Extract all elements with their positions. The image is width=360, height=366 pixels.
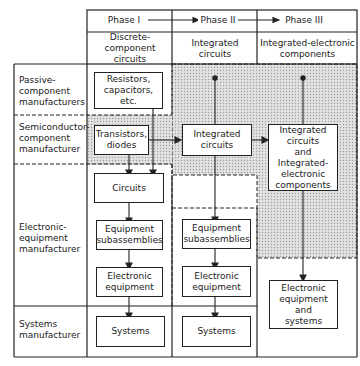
phase-3-label: Phase III [280, 14, 328, 27]
row-label-semiconductor: Semiconductor- component manufacturer [19, 122, 89, 155]
box-electronic-equipment-2: Electronic equipment [182, 266, 251, 297]
box-electronic-equipment-1: Electronic equipment [96, 267, 163, 297]
phase-3-subtitle: Integrated-electronic components [258, 34, 357, 63]
phase-2-label: Phase II [198, 14, 238, 27]
row-label-systems: Systems manufacturer [19, 319, 80, 341]
box-systems-1: Systems [96, 316, 165, 347]
box-resistors-capacitors: Resistors, capacitors, etc. [94, 72, 163, 109]
phase-1-subtitle: Discrete-component circuits [88, 34, 172, 63]
box-equipment-subassemblies-1: Equipment subassemblies [96, 220, 163, 250]
phase-2-subtitle: Integrated circuits [185, 34, 245, 63]
box-circuits: Circuits [94, 173, 164, 203]
box-integrated-circuits-2: Integrated circuits [182, 124, 252, 156]
box-transistors-diodes: Transistors, diodes [94, 125, 149, 155]
box-electronic-equipment-and-systems-3: Electronic equipment and systems [269, 280, 338, 329]
phase-1-label: Phase I [100, 14, 148, 27]
box-systems-2: Systems [182, 316, 251, 347]
row-label-electronic-equipment: Electronic- equipment manufacturer [19, 222, 80, 255]
box-integrated-circuits-and-components-3: Integrated circuits and Integrated- elec… [268, 124, 338, 191]
row-label-passive: Passive- component manufacturers [19, 75, 85, 108]
box-equipment-subassemblies-2: Equipment subassemblies [182, 219, 251, 249]
